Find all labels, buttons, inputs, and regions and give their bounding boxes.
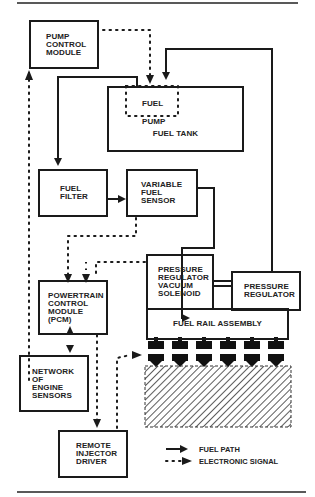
remote-injector-driver-label: REMOTE INJECTOR DRIVER (76, 442, 117, 466)
pump-control-module-box: PUMP CONTROL MODULE (29, 20, 99, 69)
pressure-regulator-vacuum-solenoid-box: PRESSURE REGULATOR VACUUM SOLENOID (146, 254, 214, 310)
pcm-label: POWERTRAIN CONTROL MODULE (PCM) (48, 292, 104, 324)
arrow-to-pcm-module (25, 70, 33, 80)
pcm-box: POWERTRAIN CONTROL MODULE (PCM) (38, 280, 108, 335)
arrow-to-pump (146, 75, 154, 84)
fuel-pump-label-wrap: FUEL PUMP (142, 92, 166, 128)
legend-fuel-path-label: FUEL PATH (199, 445, 240, 454)
variable-fuel-sensor-label: VARIABLE FUEL SENSOR (141, 181, 182, 205)
pressure-regulator-label: PRESSURE REGULATOR (244, 283, 295, 299)
connection-lines (0, 0, 315, 497)
fuel-filter-label: FUEL FILTER (60, 185, 88, 201)
engine-sensors-label: NETWORK OF ENGINE SENSORS (32, 368, 74, 400)
prvs-label: PRESSURE REGULATOR VACUUM SOLENOID (158, 266, 209, 298)
pressure-regulator-box: PRESSURE REGULATOR (231, 271, 301, 311)
pump-control-module-label: PUMP CONTROL MODULE (46, 33, 86, 57)
fuel-filter-box: FUEL FILTER (38, 169, 108, 217)
fuel-tank-label: FUEL TANK (153, 130, 199, 138)
variable-fuel-sensor-box: VARIABLE FUEL SENSOR (126, 169, 198, 217)
fuel-tank-box: FUEL TANK (107, 86, 244, 152)
fuel-rail-assembly-box: FUEL RAIL ASSEMBLY (146, 308, 289, 340)
engine-hatch (145, 366, 291, 427)
fuel-pump-label: FUEL PUMP (142, 99, 166, 126)
legend-electronic-signal-label: ELECTRONIC SIGNAL (199, 457, 278, 466)
injectors (148, 337, 284, 367)
engine-sensors-box: NETWORK OF ENGINE SENSORS (19, 355, 89, 412)
fuel-rail-label: FUEL RAIL ASSEMBLY (173, 320, 262, 328)
remote-injector-driver-box: REMOTE INJECTOR DRIVER (58, 430, 128, 478)
